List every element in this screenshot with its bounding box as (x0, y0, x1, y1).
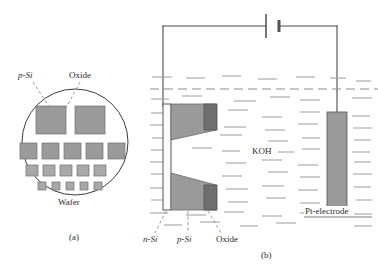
caption-panel-b: (b) (261, 250, 272, 260)
die-medium-4 (86, 143, 103, 159)
die-tiny-3 (66, 182, 74, 190)
die-medium-1 (20, 143, 37, 159)
circuit-wires (163, 26, 337, 114)
label-oxide-panel-b: Oxide (216, 234, 238, 244)
panel-a-group (20, 82, 128, 195)
label-koh: KOH (251, 146, 273, 156)
die-large-2 (75, 106, 105, 134)
battery-icon (266, 14, 279, 38)
p-si-upper-membrane (171, 104, 216, 140)
die-medium-2 (42, 143, 59, 159)
die-medium-3 (64, 143, 81, 159)
panel-b-leader-lines (155, 211, 221, 233)
n-si-layer (163, 104, 171, 210)
die-tiny-2 (52, 182, 60, 190)
die-tiny-4 (80, 182, 88, 190)
panel-b-group (150, 14, 378, 233)
p-si-lower-membrane (171, 173, 216, 210)
label-p-si-panel-b: p-Si (177, 234, 192, 244)
figure-root: p-Si Oxide Wafer (a) KOH Pt-electrode n-… (0, 0, 378, 271)
label-wafer: Wafer (58, 197, 80, 207)
oxide-layer-lower (204, 185, 217, 210)
label-p-si-panel-a: p-Si (18, 70, 33, 80)
wafer-circle (22, 89, 128, 195)
die-tiny-1 (38, 182, 46, 190)
die-small-3 (60, 165, 72, 176)
oxide-leader-line (208, 211, 221, 233)
die-small-2 (43, 165, 55, 176)
label-pt-electrode: Pt-electrode (304, 206, 349, 216)
n-si-leader-line (155, 211, 166, 233)
die-medium-5 (108, 143, 125, 159)
label-n-si-panel-b: n-Si (143, 234, 158, 244)
die-small-4 (77, 165, 89, 176)
oxide-leader-line (66, 82, 80, 108)
die-small-5 (94, 165, 106, 176)
pt-electrode-bar (327, 112, 347, 207)
die-large-1 (36, 106, 66, 134)
p-si-leader-line (33, 82, 55, 116)
diagram-canvas (0, 0, 378, 271)
die-tiny-5 (94, 182, 102, 190)
label-oxide-panel-a: Oxide (69, 70, 91, 80)
caption-panel-a: (a) (69, 232, 79, 242)
oxide-layer-upper (204, 104, 217, 130)
die-small-1 (26, 165, 38, 176)
